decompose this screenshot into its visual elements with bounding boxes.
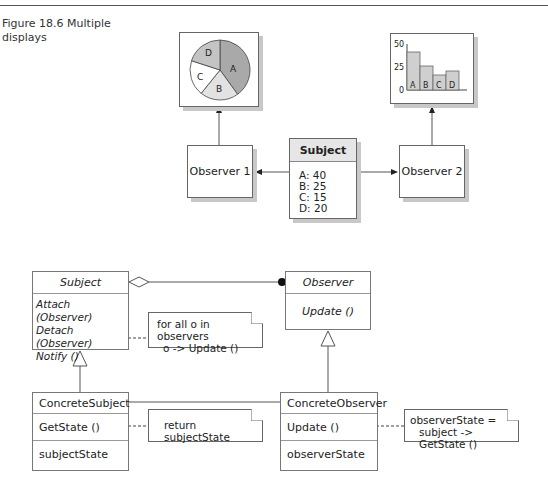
- arrowhead-icon: [429, 106, 435, 113]
- note-update-line-1: observerState =: [410, 414, 518, 426]
- uml-subject-class: Subject Attach (Observer) Detach (Observ…: [32, 271, 129, 350]
- aggregation-diamond-icon: [129, 277, 149, 287]
- arrowhead-icon: [391, 169, 398, 175]
- bar-tick-25: 25: [394, 61, 404, 74]
- note-fold-icon: [507, 409, 519, 421]
- uml-subject-ops: Attach (Observer) Detach (Observer) Noti…: [33, 294, 128, 363]
- uml-subject-op-notify: Notify (): [36, 350, 128, 363]
- uml-concrete-observer-class: ConcreteObserver Update () observerState: [280, 392, 378, 471]
- uml-observer-name: Observer: [286, 272, 370, 294]
- observer-2-box: Observer 2: [399, 145, 465, 198]
- pie-label-c: C: [197, 71, 203, 84]
- note-notify-line-1: for all o in observers: [157, 318, 262, 342]
- uml-observer-class: Observer Update (): [285, 271, 371, 330]
- uml-concrete-subject-attr: subjectState: [33, 441, 128, 470]
- bar-label-a: A: [410, 79, 415, 92]
- observer-1-label: Observer 1: [190, 165, 251, 178]
- pie-chart-display: A B C D: [179, 32, 259, 107]
- uml-concrete-subject-op-getstate: GetState (): [33, 414, 128, 441]
- note-getstate: return subjectState: [148, 409, 263, 442]
- uml-subject-op-attach: Attach (Observer): [36, 298, 128, 324]
- note-getstate-line-1: return subjectState: [164, 419, 262, 443]
- note-fold-icon: [251, 312, 263, 324]
- subject-values: A: 40 B: 25 C: 15 D: 20: [290, 162, 356, 214]
- note-fold-icon: [251, 409, 263, 421]
- bar-tick-0: 0: [399, 84, 404, 97]
- note-update: observerState = subject -> GetState (): [404, 409, 519, 442]
- note-notify: for all o in observers o -> Update (): [148, 312, 263, 348]
- uml-concrete-observer-attr: observerState: [281, 441, 377, 470]
- observer-2-label: Observer 2: [402, 165, 463, 178]
- subject-title: Subject: [290, 139, 356, 162]
- uml-concrete-observer-name: ConcreteObserver: [281, 393, 377, 414]
- uml-concrete-subject-name: ConcreteSubject: [33, 393, 128, 414]
- subject-box: Subject A: 40 B: 25 C: 15 D: 20: [289, 138, 357, 219]
- uml-concrete-subject-class: ConcreteSubject GetState () subjectState: [32, 392, 129, 471]
- pie-label-a: A: [230, 63, 236, 76]
- uml-subject-name: Subject: [33, 272, 128, 294]
- pie-label-b: B: [216, 83, 222, 96]
- inheritance-triangle-icon: [321, 331, 335, 346]
- subject-value-d: D: 20: [299, 203, 356, 214]
- observer-1-box: Observer 1: [187, 145, 253, 198]
- bar-tick-50: 50: [394, 38, 404, 51]
- bar-label-c: C: [436, 79, 442, 92]
- bar-chart-display: 50 25 0 A B C D: [390, 33, 474, 104]
- pie-label-d: D: [205, 47, 212, 60]
- pie-chart: [180, 33, 260, 108]
- uml-concrete-observer-op-update: Update (): [281, 414, 377, 441]
- uml-observer-op-update: Update (): [286, 294, 370, 329]
- uml-subject-op-detach: Detach (Observer): [36, 324, 128, 350]
- bar-label-d: D: [449, 79, 455, 92]
- note-notify-line-2: o -> Update (): [157, 342, 262, 354]
- arrowhead-icon: [255, 169, 262, 175]
- bar-label-b: B: [423, 79, 429, 92]
- note-update-line-2: subject -> GetState (): [410, 426, 518, 450]
